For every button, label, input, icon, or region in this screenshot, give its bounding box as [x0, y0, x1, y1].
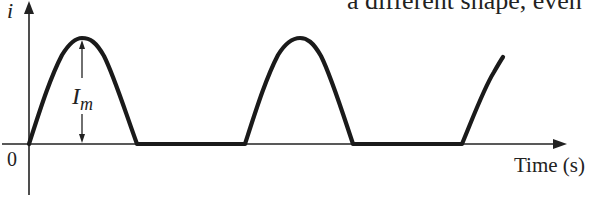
y-axis-arrow-icon [24, 1, 34, 14]
origin-label: 0 [7, 148, 17, 171]
amplitude-symbol: I [72, 83, 80, 109]
im-arrow-up-icon [79, 40, 85, 49]
amplitude-label: Im [72, 83, 93, 115]
amplitude-subscript: m [80, 94, 93, 114]
rectified-current-curve [29, 38, 503, 144]
im-arrow-down-icon [79, 134, 85, 143]
y-axis-label: i [7, 0, 13, 24]
x-axis-label: Time (s) [514, 153, 585, 178]
x-axis-arrow-icon [553, 139, 567, 149]
